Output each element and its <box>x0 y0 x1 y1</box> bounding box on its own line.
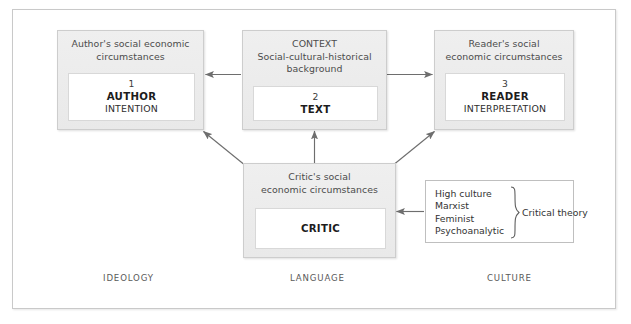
context-title: TEXT <box>301 103 331 116</box>
curly-brace-icon <box>509 186 521 239</box>
context-caption: CONTEXT Social-cultural-historical backg… <box>249 38 380 76</box>
reader-number: 3 <box>502 78 508 90</box>
node-author[interactable]: Author's social economic circumstances 1… <box>57 30 204 130</box>
author-title: AUTHOR <box>107 90 157 103</box>
list-item: Marxist <box>435 200 504 212</box>
critic-title: CRITIC <box>301 222 340 235</box>
context-number: 2 <box>313 91 319 103</box>
author-caption: Author's social economic circumstances <box>64 38 197 63</box>
critical-theory-label: Critical theory <box>522 207 588 218</box>
reader-subtitle: INTERPRETATION <box>464 103 546 116</box>
author-number: 1 <box>129 78 135 90</box>
diagram-canvas: Author's social economic circumstances 1… <box>0 0 631 324</box>
reader-caption: Reader's social economic circumstances <box>441 38 567 63</box>
author-subtitle: INTENTION <box>105 103 158 116</box>
reader-card: 3 READER INTERPRETATION <box>445 73 565 121</box>
list-item: High culture <box>435 188 504 200</box>
critic-caption: Critic's social economic circumstances <box>250 171 389 196</box>
author-card: 1 AUTHOR INTENTION <box>68 73 195 121</box>
axis-label-culture: CULTURE <box>487 273 532 283</box>
critical-theory-list: High culture Marxist Feminist Psychoanal… <box>435 188 504 237</box>
node-critic[interactable]: Critic's social economic circumstances C… <box>243 163 396 258</box>
reader-title: READER <box>481 90 529 103</box>
axis-label-language: LANGUAGE <box>290 273 345 283</box>
critic-card: CRITIC <box>255 208 386 249</box>
node-reader[interactable]: Reader's social economic circumstances 3… <box>434 30 574 130</box>
node-context[interactable]: CONTEXT Social-cultural-historical backg… <box>242 30 387 130</box>
context-card: 2 TEXT <box>253 86 378 121</box>
critical-theory-box[interactable]: High culture Marxist Feminist Psychoanal… <box>425 180 574 243</box>
list-item: Psychoanalytic <box>435 225 504 237</box>
axis-label-ideology: IDEOLOGY <box>103 273 154 283</box>
list-item: Feminist <box>435 213 504 225</box>
